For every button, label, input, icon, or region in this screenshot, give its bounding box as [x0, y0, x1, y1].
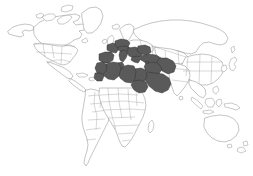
country-sri-lanka: [179, 96, 183, 100]
highlight-western-sahara: [94, 73, 104, 81]
world-map-canvas: [0, 0, 253, 176]
country-tasmania: [227, 144, 232, 148]
country-new-zealand-north: [243, 141, 248, 146]
world-map-figure: [0, 0, 253, 176]
